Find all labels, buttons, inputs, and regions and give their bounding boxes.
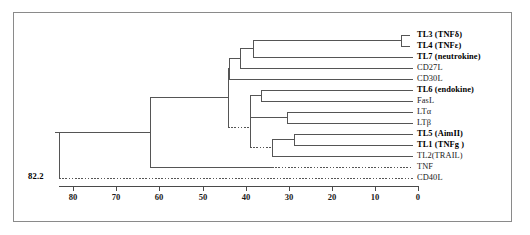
root-distance-label: 82.2 xyxy=(28,172,44,181)
leaf-label-LTalpha: LTα xyxy=(417,107,431,116)
leaf-label-TL6: TL6 (endokine) xyxy=(417,85,474,94)
axis-tick-label-70: 70 xyxy=(112,193,121,202)
axis-tick-label-30: 30 xyxy=(285,193,294,202)
leaf-label-TL4: TL4 (TNFε) xyxy=(417,41,461,50)
leaf-label-TL3: TL3 (TNFδ) xyxy=(417,30,462,39)
axis-tick-label-80: 80 xyxy=(69,193,78,202)
axis-tick-label-50: 50 xyxy=(199,193,208,202)
leaf-label-CD40L: CD40L xyxy=(417,173,443,182)
leaf-label-CD30L: CD30L xyxy=(417,74,443,83)
leaf-label-TL2: TL2(TRAIL) xyxy=(417,151,463,160)
dendrogram-figure: 82.2 TL3 (TNFδ) TL4 (TNFε) TL7 (neutroki… xyxy=(0,0,530,235)
leaf-label-FasL: FasL xyxy=(417,96,434,105)
axis-tick-label-40: 40 xyxy=(242,193,251,202)
axis-tick-label-20: 20 xyxy=(328,193,337,202)
axis-tick-label-0: 0 xyxy=(416,193,420,202)
leaf-label-TL1: TL1 (TNFg ) xyxy=(417,140,464,149)
leaf-label-CD27L: CD27L xyxy=(417,63,443,72)
leaf-label-TL5: TL5 (AimII) xyxy=(417,129,463,138)
axis-tick-label-60: 60 xyxy=(155,193,164,202)
leaf-label-LTbeta: LTβ xyxy=(417,118,431,127)
tree-branches xyxy=(55,35,418,191)
axis-tick-label-10: 10 xyxy=(371,193,380,202)
leaf-label-TL7: TL7 (neutrokine) xyxy=(417,52,481,61)
leaf-label-TNF: TNF xyxy=(417,162,433,171)
